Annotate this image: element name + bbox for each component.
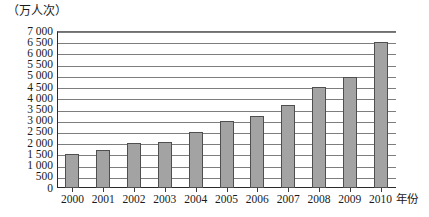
- x-axis-tick-label: 2004: [184, 193, 207, 205]
- bar: [96, 150, 110, 188]
- y-axis-tick-label: 500: [36, 171, 53, 183]
- bar-chart-figure: （万人次） 05001 0001 5002 0002 5003 0003 500…: [0, 0, 429, 217]
- y-axis-tick-label: 3 000: [27, 115, 53, 127]
- x-axis-tick-label: 2002: [123, 193, 146, 205]
- x-axis-tick: [72, 188, 73, 192]
- y-axis-tick-label: 4 500: [27, 82, 53, 94]
- y-axis-tick-label: 1 000: [27, 160, 53, 172]
- x-axis-tick: [165, 188, 166, 192]
- x-axis-tick: [288, 188, 289, 192]
- bar: [189, 132, 203, 188]
- bar: [312, 87, 326, 188]
- bar: [65, 154, 79, 188]
- x-axis-tick-label: 2001: [92, 193, 115, 205]
- bar: [374, 42, 388, 188]
- x-axis-tick: [227, 188, 228, 192]
- x-axis-tick-label: 2009: [338, 193, 361, 205]
- x-axis-tick: [257, 188, 258, 192]
- x-axis-tick: [319, 188, 320, 192]
- x-axis-tick-label: 2000: [61, 193, 84, 205]
- y-axis-tick-label: 7 000: [27, 26, 53, 38]
- y-axis-tick-label: 5 000: [27, 70, 53, 82]
- x-axis-tick-label: 2005: [215, 193, 238, 205]
- x-axis-tick: [103, 188, 104, 192]
- x-axis-tick-label: 2008: [307, 193, 330, 205]
- bar: [250, 116, 264, 188]
- bar: [281, 105, 295, 188]
- x-axis-tick-label: 2003: [153, 193, 176, 205]
- y-axis-tick-label: 3 500: [27, 104, 53, 116]
- bar: [127, 143, 141, 188]
- x-axis-tick-label: 2007: [277, 193, 300, 205]
- x-axis-tick-label: 2006: [246, 193, 269, 205]
- y-axis-tick-label: 2 000: [27, 138, 53, 150]
- x-axis-tick-label: 2010: [369, 193, 392, 205]
- bar: [343, 77, 357, 188]
- y-axis-tick-label: 4 000: [27, 93, 53, 105]
- x-axis-tick: [134, 188, 135, 192]
- x-axis-tick-label-group: 2000200120022003200420052006200720082009…: [0, 193, 429, 213]
- x-axis-tick: [381, 188, 382, 192]
- x-axis-tick: [196, 188, 197, 192]
- x-axis-title: 年份: [396, 193, 418, 205]
- x-axis-tick: [350, 188, 351, 192]
- y-axis-tick-label: 5 500: [27, 59, 53, 71]
- y-axis-tick-label: 6 500: [27, 37, 53, 49]
- bar: [158, 142, 172, 188]
- bar-series-group: [57, 31, 396, 188]
- y-axis-tick-label-group: 05001 0001 5002 0002 5003 0003 5004 0004…: [0, 0, 57, 217]
- bar: [220, 121, 234, 188]
- y-axis-tick-label: 2 500: [27, 126, 53, 138]
- y-axis-tick-label: 6 000: [27, 48, 53, 60]
- y-axis-tick-label: 1 500: [27, 149, 53, 161]
